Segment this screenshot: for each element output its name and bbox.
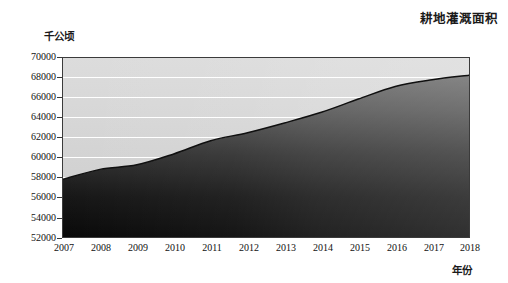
chart-title: 耕地灌溉面积 — [420, 8, 498, 27]
plot-sheen-overlay — [63, 58, 469, 237]
y-tick-label: 58000 — [10, 172, 56, 182]
y-tick-label: 54000 — [10, 213, 56, 223]
x-axis-unit-label: 年份 — [452, 262, 472, 277]
x-tick-label: 2018 — [460, 242, 480, 253]
chart-figure: 耕地灌溉面积 千公顷 70000 68000 66000 64000 62000… — [0, 0, 508, 283]
y-tick-label: 64000 — [10, 112, 56, 122]
x-tick-label: 2013 — [276, 242, 296, 253]
area-chart-svg — [63, 58, 469, 237]
x-tick-label: 2015 — [350, 242, 370, 253]
y-tick-label: 66000 — [10, 92, 56, 102]
y-tick-label: 60000 — [10, 152, 56, 162]
x-tick-label: 2014 — [313, 242, 333, 253]
x-tick-label: 2017 — [424, 242, 444, 253]
y-tick-label: 62000 — [10, 132, 56, 142]
x-tick-label: 2012 — [239, 242, 259, 253]
y-tick-label: 56000 — [10, 192, 56, 202]
y-axis-tick-labels: 70000 68000 66000 64000 62000 60000 5800… — [8, 0, 56, 283]
x-tick-label: 2010 — [165, 242, 185, 253]
x-tick-label: 2007 — [54, 242, 74, 253]
y-tick-label: 68000 — [10, 72, 56, 82]
x-axis-tick-labels: 2007 2008 2009 2010 2011 2012 2013 2014 … — [0, 242, 508, 258]
x-tick-label: 2009 — [128, 242, 148, 253]
y-tick-label: 70000 — [10, 52, 56, 62]
x-tick-label: 2011 — [202, 242, 222, 253]
y-tick-mark — [57, 238, 62, 239]
x-tick-label: 2016 — [387, 242, 407, 253]
x-tick-label: 2008 — [91, 242, 111, 253]
plot-area — [62, 57, 470, 238]
